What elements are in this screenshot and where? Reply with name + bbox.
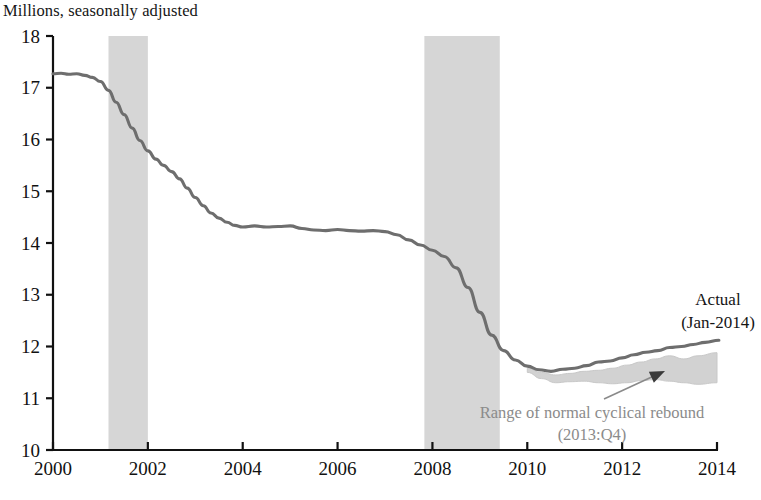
- y-tick-label-14: 14: [21, 233, 41, 254]
- recession-bands-group: [108, 36, 499, 450]
- series-line-actual: [53, 73, 719, 371]
- x-tick-label-2014: 2014: [698, 458, 737, 479]
- actual-label-line1: Actual: [695, 290, 741, 309]
- x-tick-label-2012: 2012: [603, 458, 641, 479]
- chart-plot-area: 181716151413121110 200020022004200620082…: [0, 0, 761, 500]
- x-tick-label-2002: 2002: [129, 458, 167, 479]
- x-tick-label-2000: 2000: [34, 458, 72, 479]
- x-tick-label-2008: 2008: [413, 458, 451, 479]
- range-label-line1: Range of normal cyclical rebound: [480, 403, 705, 422]
- y-tick-label-18: 18: [21, 26, 40, 47]
- y-axis-ticks-group: 181716151413121110: [21, 26, 53, 461]
- x-tick-label-2006: 2006: [319, 458, 357, 479]
- y-tick-label-17: 17: [21, 77, 40, 98]
- chart-container: Millions, seasonally adjusted 1817161514…: [0, 0, 761, 500]
- x-tick-label-2004: 2004: [224, 458, 263, 479]
- y-tick-label-12: 12: [21, 336, 40, 357]
- y-tick-label-16: 16: [21, 129, 40, 150]
- y-tick-label-15: 15: [21, 181, 40, 202]
- y-tick-label-11: 11: [22, 388, 40, 409]
- axes-group: [53, 36, 718, 450]
- y-tick-label-13: 13: [21, 284, 40, 305]
- actual-label-line2: (Jan-2014): [681, 313, 755, 332]
- x-tick-label-2010: 2010: [508, 458, 546, 479]
- recession-2008-band: [424, 36, 499, 450]
- data-series-group: [53, 73, 719, 371]
- range-label-line2: (2013:Q4): [558, 425, 627, 444]
